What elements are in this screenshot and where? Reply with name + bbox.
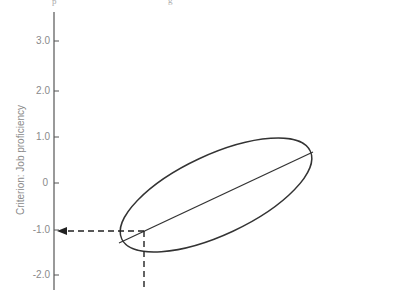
scatter-envelope-ellipse [105, 115, 327, 275]
y-tick-label-2: 2.0 [36, 85, 50, 96]
y-tick-label-3: 3.0 [36, 35, 50, 46]
y-ticks [54, 41, 59, 275]
criterion-chart: p g 3.0 2.0 1.0 0 -1.0 -2.0 Criterion: J… [0, 0, 406, 290]
y-axis-title: Criterion: Job proficiency [15, 105, 26, 215]
y-tick-label-neg1: -1.0 [33, 224, 51, 235]
top-text-fragment-center: g [168, 0, 173, 5]
y-tick-label-1: 1.0 [36, 131, 50, 142]
arrowhead-icon [57, 227, 67, 235]
y-tick-label-0: 0 [42, 177, 48, 188]
regression-line [119, 152, 313, 243]
y-tick-label-neg2: -2.0 [33, 269, 51, 280]
top-text-fragment-left: p [52, 0, 57, 6]
